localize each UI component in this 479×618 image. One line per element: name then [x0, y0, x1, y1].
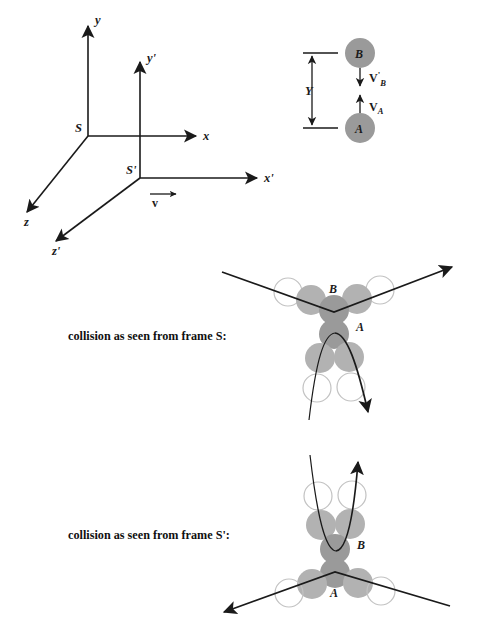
- velocity-a-vector: VA: [360, 95, 384, 116]
- axis-y-label: y: [93, 13, 101, 27]
- ghost-circle-a-left: [303, 374, 331, 402]
- collision-s-ball-b-label: B: [328, 282, 337, 296]
- axis-x-label: x: [202, 129, 209, 143]
- origin-s-prime-label: S': [126, 163, 137, 177]
- velocity-v-label: v: [152, 196, 158, 210]
- collision-s-caption: collision as seen from frame S:: [68, 329, 227, 343]
- velocity-a-label: VA: [369, 100, 384, 116]
- ghost-circle-b-prime-right: [338, 481, 366, 509]
- axis-z-line: [27, 136, 88, 212]
- ghost-circle-a-right: [337, 373, 365, 401]
- ball-a-prime-path-right: [343, 568, 373, 598]
- collision-s-prime-ball-a-label: A: [329, 586, 338, 600]
- axis-y-prime-label: y': [145, 51, 157, 65]
- collision-frame-s-diagram: collision as seen from frame S: B A: [68, 267, 452, 420]
- axis-z-label: z: [23, 215, 29, 229]
- ghost-circle-a-prime-right: [367, 577, 395, 605]
- balls-setup-diagram: B A V'B VA Y: [303, 38, 386, 143]
- axis-z-prime-label: z': [51, 244, 61, 258]
- physics-figure: y x z S y' x' z' S' v B A V'B: [0, 0, 479, 618]
- velocity-b-prime-vector: V'B: [360, 68, 386, 88]
- velocity-b-prime-label: V'B: [369, 70, 386, 88]
- frame-velocity-vector: v: [150, 194, 176, 210]
- collision-s-prime-caption: collision as seen from frame S':: [68, 528, 230, 542]
- setup-ball-b-label: B: [354, 47, 363, 61]
- frame-s-prime-axes: y' x' z' S' v: [51, 51, 274, 258]
- collision-s-prime-ball-b-label: B: [356, 538, 365, 552]
- origin-s-label: S: [75, 121, 82, 135]
- figure-root: y x z S y' x' z' S' v B A V'B: [0, 0, 479, 618]
- collision-s-ball-a-label: A: [355, 320, 364, 334]
- axis-x-prime-label: x': [263, 171, 274, 185]
- separation-dimension: Y: [303, 53, 338, 128]
- setup-ball-a-label: A: [354, 122, 363, 136]
- axis-z-prime-line: [56, 178, 140, 241]
- collision-frame-s-prime-diagram: collision as seen from frame S': B A: [68, 455, 450, 612]
